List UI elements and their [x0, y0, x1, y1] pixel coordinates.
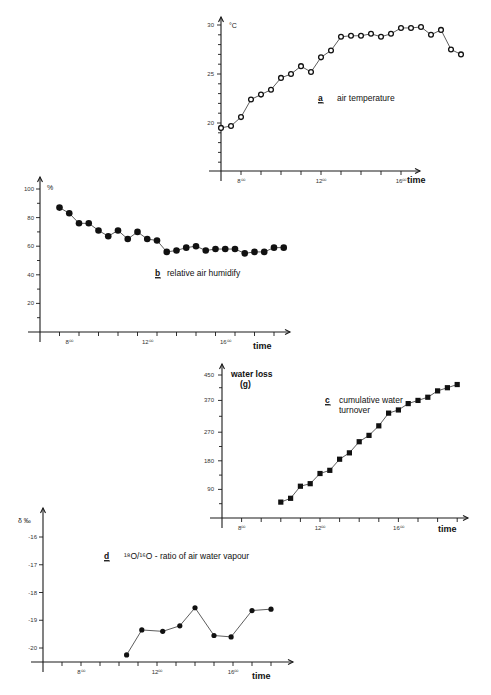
- data-point-filled-circle: [229, 634, 234, 639]
- data-point-open-circle: [459, 52, 464, 57]
- chart-b-relative-humidity: 8⁰⁰12⁰⁰16⁰⁰20406080100%timebrelative air…: [24, 177, 290, 351]
- y-axis-unit: °C: [229, 22, 237, 29]
- data-point-filled-circle: [76, 220, 83, 227]
- data-point-open-circle: [369, 31, 374, 36]
- data-point-filled-circle: [144, 236, 151, 243]
- data-point-filled-circle: [124, 652, 129, 657]
- data-point-filled-circle: [85, 220, 92, 227]
- data-point-open-circle: [279, 76, 284, 81]
- data-point-filled-circle: [134, 229, 141, 236]
- x-tick-label: 12⁰⁰: [316, 178, 328, 184]
- y-tick-label: -19: [28, 617, 37, 623]
- x-tick-label: 8⁰⁰: [237, 178, 245, 184]
- data-point-filled-circle: [95, 227, 102, 234]
- data-point-open-circle: [419, 25, 424, 30]
- data-point-open-circle: [319, 55, 324, 60]
- panel-letter: b: [155, 268, 160, 278]
- chart-title-line2: turnover: [339, 405, 370, 415]
- y-tick-label: 25: [207, 71, 214, 77]
- data-point-square: [327, 468, 332, 473]
- y-tick-label: -18: [28, 590, 37, 596]
- data-point-filled-circle: [280, 244, 287, 251]
- data-point-square: [337, 457, 342, 462]
- data-point-square: [445, 385, 450, 390]
- data-point-square: [455, 382, 460, 387]
- data-point-filled-circle: [271, 244, 278, 251]
- x-tick-label: 16⁰⁰: [228, 669, 240, 675]
- data-point-open-circle: [309, 70, 314, 75]
- series-line: [221, 27, 461, 128]
- data-point-filled-circle: [268, 607, 273, 612]
- y-tick-label: -17: [28, 562, 37, 568]
- y-tick-label: 80: [27, 215, 34, 221]
- data-point-open-circle: [259, 92, 264, 97]
- data-point-filled-circle: [241, 250, 248, 257]
- data-point-filled-circle: [211, 633, 216, 638]
- data-point-open-circle: [299, 64, 304, 69]
- data-point-filled-circle: [173, 247, 180, 254]
- data-point-square: [366, 433, 371, 438]
- data-point-square: [415, 398, 420, 403]
- y-tick-label: 370: [204, 397, 215, 403]
- panel-letter: c: [325, 395, 330, 405]
- x-tick-label: 16⁰⁰: [220, 339, 232, 345]
- data-point-square: [396, 407, 401, 412]
- data-point-filled-circle: [183, 244, 190, 251]
- data-point-open-circle: [249, 97, 254, 102]
- data-point-open-circle: [339, 34, 344, 39]
- x-tick-label: 12⁰⁰: [315, 525, 327, 531]
- data-point-open-circle: [219, 126, 224, 131]
- data-point-square: [288, 496, 293, 501]
- y-axis-label: water loss: [230, 369, 273, 379]
- x-axis-label: time: [252, 671, 271, 681]
- x-tick-label: 16⁰⁰: [396, 178, 408, 184]
- data-point-filled-circle: [160, 629, 165, 634]
- x-tick-label: 8⁰⁰: [77, 669, 85, 675]
- y-tick-label: 40: [27, 272, 34, 278]
- data-point-open-circle: [449, 47, 454, 52]
- data-point-open-circle: [399, 26, 404, 31]
- data-point-open-circle: [329, 48, 334, 53]
- data-point-open-circle: [289, 72, 294, 77]
- data-point-filled-circle: [222, 246, 229, 253]
- data-point-filled-circle: [56, 204, 63, 211]
- data-point-filled-circle: [115, 227, 122, 234]
- y-tick-label: 60: [27, 243, 34, 249]
- data-point-open-circle: [409, 26, 414, 31]
- data-point-open-circle: [359, 33, 364, 38]
- data-point-open-circle: [439, 28, 444, 33]
- data-point-filled-circle: [193, 243, 200, 250]
- series-line: [60, 208, 284, 254]
- data-point-filled-circle: [163, 249, 170, 256]
- data-point-square: [425, 395, 430, 400]
- panel-letter: d: [104, 551, 109, 561]
- data-point-square: [317, 471, 322, 476]
- data-point-filled-circle: [261, 249, 268, 256]
- x-axis-label: time: [438, 524, 457, 534]
- data-point-filled-circle: [212, 246, 219, 253]
- x-tick-label: 12⁰⁰: [142, 339, 154, 345]
- y-axis-unit: %: [47, 184, 53, 191]
- x-tick-label: 8⁰⁰: [66, 339, 74, 345]
- data-point-open-circle: [239, 115, 244, 120]
- data-point-filled-circle: [177, 623, 182, 628]
- panel-letter: a: [318, 93, 323, 103]
- data-point-square: [298, 484, 303, 489]
- chart-title: air temperature: [337, 93, 395, 103]
- chart-d-isotope-ratio: 8⁰⁰12⁰⁰16⁰⁰-20-19-18-17-16δ ‰timed¹⁸O/¹⁶…: [18, 508, 293, 681]
- data-point-filled-circle: [124, 236, 131, 243]
- data-point-open-circle: [349, 33, 354, 38]
- chart-title: cumulative water: [339, 395, 403, 405]
- y-tick-label: 20: [27, 300, 34, 306]
- chart-title: ¹⁸O/¹⁶O - ratio of air water vapour: [124, 551, 249, 561]
- data-point-filled-circle: [249, 608, 254, 613]
- data-point-filled-circle: [154, 237, 161, 244]
- data-point-open-circle: [269, 87, 274, 92]
- y-tick-label: 180: [204, 458, 215, 464]
- data-point-filled-circle: [251, 249, 258, 256]
- x-tick-label: 16⁰⁰: [393, 525, 405, 531]
- data-point-square: [278, 500, 283, 505]
- y-axis-unit: (g): [240, 379, 251, 389]
- y-tick-label: 30: [207, 22, 214, 28]
- data-point-open-circle: [389, 31, 394, 36]
